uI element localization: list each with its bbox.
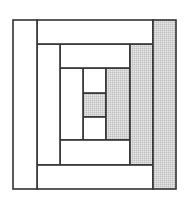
log-cabin-quilt-block <box>0 0 193 197</box>
quilt-piece-ring1-top <box>83 68 106 93</box>
quilt-pieces <box>13 20 176 189</box>
quilt-piece-ring1-bottom <box>83 117 106 140</box>
quilt-piece-ring1-left <box>60 68 83 140</box>
quilt-piece-ring3-left <box>13 20 37 189</box>
quilt-piece-center <box>83 93 106 117</box>
quilt-piece-ring3-right <box>153 20 176 189</box>
quilt-piece-ring3-top <box>37 20 153 44</box>
quilt-piece-ring2-right <box>130 44 153 165</box>
quilt-piece-ring2-top <box>60 44 130 68</box>
quilt-piece-ring1-right <box>106 68 130 140</box>
quilt-piece-ring2-bottom <box>60 140 130 165</box>
quilt-piece-ring3-bottom <box>37 165 153 189</box>
quilt-piece-ring2-left <box>37 44 60 165</box>
